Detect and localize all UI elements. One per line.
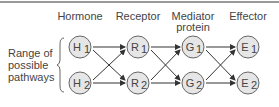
- node-h2: H2: [69, 72, 91, 94]
- svg-text:1: 1: [84, 43, 90, 55]
- svg-text:R: R: [131, 77, 139, 89]
- column-header-effector: Effector: [229, 10, 267, 22]
- svg-text:1: 1: [251, 43, 257, 55]
- column-header-hormone: Hormone: [57, 10, 102, 22]
- side-label-line3: pathways: [8, 71, 55, 83]
- svg-text:E: E: [241, 77, 248, 89]
- svg-text:1: 1: [196, 43, 202, 55]
- brace: [57, 38, 64, 92]
- svg-text:G: G: [186, 77, 195, 89]
- svg-text:2: 2: [84, 79, 90, 91]
- node-e2: E2: [237, 72, 259, 94]
- svg-text:H: H: [73, 41, 81, 53]
- node-h1: H1: [69, 36, 91, 58]
- side-label-line2: possible: [8, 59, 48, 71]
- svg-text:R: R: [131, 41, 139, 53]
- column-header-mediator-line2: protein: [176, 21, 210, 33]
- svg-text:1: 1: [141, 43, 147, 55]
- column-header-receptor: Receptor: [116, 10, 161, 22]
- side-label-line1: Range of: [8, 47, 54, 59]
- svg-text:G: G: [186, 41, 195, 53]
- node-g1: G1: [182, 36, 204, 58]
- svg-text:E: E: [241, 41, 248, 53]
- node-r2: R2: [127, 72, 149, 94]
- svg-text:2: 2: [196, 79, 202, 91]
- svg-text:H: H: [73, 77, 81, 89]
- svg-text:2: 2: [251, 79, 257, 91]
- node-e1: E1: [237, 36, 259, 58]
- pathway-diagram: Hormone Receptor Mediator protein Effect…: [0, 0, 279, 107]
- node-g2: G2: [182, 72, 204, 94]
- arrows: [93, 47, 235, 83]
- node-r1: R1: [127, 36, 149, 58]
- svg-text:2: 2: [141, 79, 147, 91]
